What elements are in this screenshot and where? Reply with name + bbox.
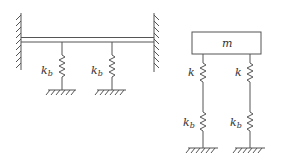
spring-label-kb-4: kb (230, 116, 242, 130)
spring-label-kb-1: kb (41, 64, 53, 78)
beam (21, 38, 154, 43)
spring-label-k-1: k (188, 66, 195, 79)
spring-label-kb-3: kb (183, 116, 195, 130)
spring-mass-diagram: kb kb m k k kb kb (0, 0, 281, 162)
mass-label: m (222, 37, 232, 50)
mass-spring-column-2 (247, 54, 253, 148)
beam-spring-2 (109, 42, 115, 90)
spring-label-k-2: k (235, 66, 242, 79)
beam-spring-1 (59, 42, 65, 90)
mass-spring-column-1 (200, 54, 206, 148)
right-wall (154, 13, 159, 72)
ground-2 (95, 90, 126, 95)
ground-3 (186, 148, 218, 153)
left-wall (16, 13, 21, 70)
ground-1 (46, 90, 76, 95)
ground-4 (233, 148, 265, 153)
spring-label-kb-2: kb (91, 64, 103, 78)
